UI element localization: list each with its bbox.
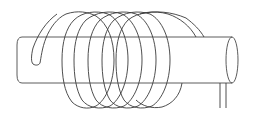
wire-hook [32, 14, 67, 65]
cylinder-core [17, 37, 238, 83]
wire-leads [220, 83, 226, 108]
coil-turns [62, 12, 204, 108]
solenoid-drawing [0, 0, 259, 117]
solenoid-diagram: Solenoid coil wound around a cylindrical… [0, 0, 259, 117]
